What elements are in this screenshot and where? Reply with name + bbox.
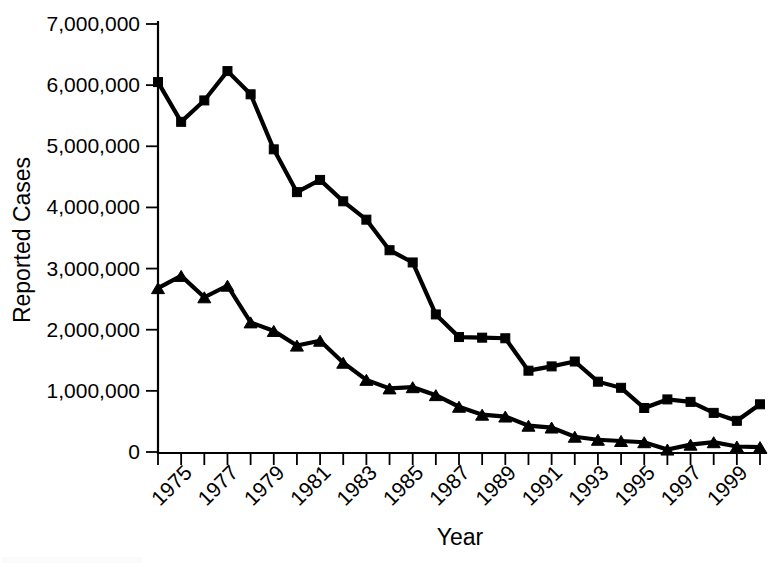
square-marker — [547, 362, 556, 371]
square-marker — [269, 145, 278, 154]
square-marker — [223, 67, 232, 76]
square-marker — [663, 395, 672, 404]
y-tick-label: 6,000,000 — [47, 73, 140, 96]
x-axis-title: Year — [437, 524, 484, 550]
square-marker — [431, 310, 440, 319]
square-marker — [200, 96, 209, 105]
y-tick-label: 7,000,000 — [47, 12, 140, 35]
square-marker — [154, 78, 163, 87]
square-marker — [709, 408, 718, 417]
y-axis-title: Reported Cases — [9, 157, 35, 323]
square-marker — [570, 357, 579, 366]
chart-svg: 01,000,0002,000,0003,000,0004,000,0005,0… — [0, 0, 777, 571]
y-tick-label: 4,000,000 — [47, 195, 140, 218]
square-marker — [593, 377, 602, 386]
reported-cases-line-chart: 01,000,0002,000,0003,000,0004,000,0005,0… — [0, 0, 777, 571]
square-marker — [177, 117, 186, 126]
square-marker — [292, 188, 301, 197]
y-tick-label: 1,000,000 — [47, 379, 140, 402]
square-marker — [640, 403, 649, 412]
square-marker — [732, 416, 741, 425]
square-marker — [524, 366, 533, 375]
square-marker — [617, 383, 626, 392]
square-marker — [408, 258, 417, 267]
square-marker — [455, 333, 464, 342]
scan-artifact — [2, 557, 142, 563]
y-tick-label: 2,000,000 — [47, 318, 140, 341]
square-marker — [686, 397, 695, 406]
y-tick-label: 3,000,000 — [47, 257, 140, 280]
square-marker — [339, 197, 348, 206]
square-marker — [246, 90, 255, 99]
square-marker — [756, 400, 765, 409]
square-marker — [501, 334, 510, 343]
square-marker — [385, 246, 394, 255]
y-tick-label: 5,000,000 — [47, 134, 140, 157]
square-marker — [362, 215, 371, 224]
y-tick-label: 0 — [128, 440, 140, 463]
square-marker — [478, 333, 487, 342]
square-marker — [316, 175, 325, 184]
